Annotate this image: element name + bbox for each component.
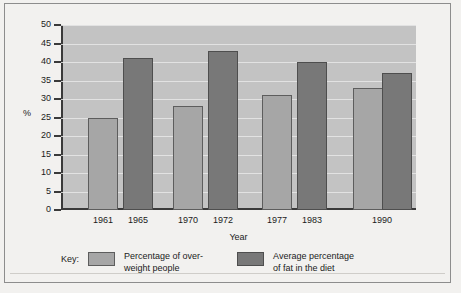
chart-legend: Key: Percentage of over- weight people A… bbox=[61, 251, 388, 274]
x-axis-tick-label: 1977 bbox=[257, 215, 297, 225]
y-axis-tick-label: 40 bbox=[27, 56, 51, 66]
y-axis-tick bbox=[54, 24, 61, 26]
legend-entry-fat: Average percentage of fat in the diet bbox=[237, 251, 354, 274]
gridline bbox=[61, 44, 416, 45]
bar bbox=[88, 118, 118, 211]
chart-area: 50454035302520151050 1961196519701972197… bbox=[61, 25, 416, 210]
legend-swatch-dark bbox=[237, 252, 264, 266]
y-axis-tick bbox=[54, 80, 61, 82]
gridline bbox=[61, 81, 416, 82]
y-axis-tick-label: 15 bbox=[27, 149, 51, 159]
footer-divider bbox=[10, 273, 445, 274]
bar bbox=[382, 73, 412, 210]
x-axis-tick-label: 1972 bbox=[203, 215, 243, 225]
y-axis-tick-label: 20 bbox=[27, 130, 51, 140]
legend-entry-overweight: Percentage of over- weight people bbox=[88, 251, 203, 274]
y-axis-tick-label: 0 bbox=[27, 204, 51, 214]
x-axis-tick-label: 1965 bbox=[118, 215, 158, 225]
y-axis-tick bbox=[54, 61, 61, 63]
legend-title: Key: bbox=[61, 251, 79, 265]
y-axis-tick bbox=[54, 209, 61, 211]
gridline bbox=[61, 62, 416, 63]
chart-frame: % 50454035302520151050 19611965197019721… bbox=[4, 3, 451, 283]
y-axis-tick bbox=[54, 117, 61, 119]
y-axis-tick-label: 30 bbox=[27, 93, 51, 103]
x-axis-tick-label: 1970 bbox=[168, 215, 208, 225]
bar bbox=[262, 95, 292, 210]
bar bbox=[208, 51, 238, 210]
legend-label-fat: Average percentage of fat in the diet bbox=[273, 251, 354, 274]
legend-label-overweight: Percentage of over- weight people bbox=[124, 251, 203, 274]
x-axis-tick-label: 1983 bbox=[292, 215, 332, 225]
y-axis-tick-label: 10 bbox=[27, 167, 51, 177]
y-axis-tick bbox=[54, 154, 61, 156]
y-axis-tick bbox=[54, 43, 61, 45]
legend-swatch-light bbox=[88, 252, 115, 266]
y-axis-tick-label: 50 bbox=[27, 19, 51, 29]
bar bbox=[297, 62, 327, 210]
bar bbox=[173, 106, 203, 210]
y-axis-tick bbox=[54, 135, 61, 137]
bar bbox=[123, 58, 153, 210]
x-axis-tick-label: 1961 bbox=[83, 215, 123, 225]
y-axis-tick bbox=[54, 98, 61, 100]
bar bbox=[353, 88, 383, 210]
x-axis-title: Year bbox=[61, 232, 416, 242]
y-axis-tick-label: 45 bbox=[27, 38, 51, 48]
y-axis-tick-label: 35 bbox=[27, 75, 51, 85]
y-axis-tick bbox=[54, 191, 61, 193]
y-axis-tick-label: 25 bbox=[27, 112, 51, 122]
y-axis-tick bbox=[54, 172, 61, 174]
y-axis-tick-label: 5 bbox=[27, 186, 51, 196]
gridline bbox=[61, 25, 416, 26]
x-axis-tick-label: 1990 bbox=[362, 215, 402, 225]
